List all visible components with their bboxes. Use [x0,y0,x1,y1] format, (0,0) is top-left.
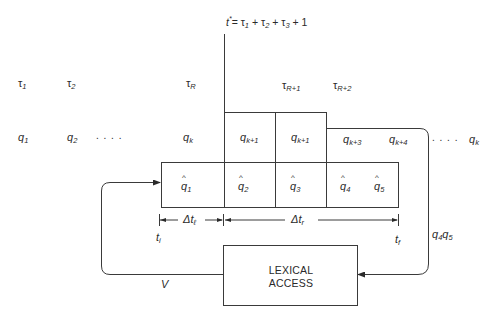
lexical-access-label: LEXICAL ACCESS [224,264,358,290]
q-hat-5: ^q5 [374,181,384,194]
q-2: q2 [67,132,77,145]
tau-2: τ2 [67,78,76,91]
q-ellipsis-left: . . . . [96,131,122,141]
q-k-plus-1-b: qk+1 [291,132,309,145]
tau-r-plus-2: τR+2 [333,80,351,93]
delta-t-left: Δtℓ [183,214,196,227]
t-star-equation: t*= τ1 + τ2 + τ3 + 1 [226,15,307,29]
q-1: q1 [18,132,28,145]
q-k: qk [183,132,193,145]
qhat-row-box [162,163,399,208]
q-hat-4: ^q4 [340,181,350,194]
output-q4q5-label: q4q5 [432,229,453,242]
q-hat-2: ^q2 [238,181,248,194]
q-ellipsis-right: . . . . [432,133,458,143]
delta-t-right: Δtr [291,214,304,227]
q-k-plus-1-a: qk+1 [240,132,258,145]
t-initial: ti [156,232,161,245]
tau-r: τR [186,78,196,91]
q-k-plus-4: qk+4 [389,134,407,147]
q-hat-1: ^q1 [181,181,191,194]
tau-r-plus-1: τR+1 [282,80,300,93]
q-hat-3: ^q3 [290,181,300,194]
tau-1: τ1 [18,78,27,91]
q-k-plus-3: qk+3 [343,134,361,147]
output-path [327,129,429,275]
q-k-end: qk [469,134,479,147]
feedback-path [102,183,224,275]
feedback-v-label: V [161,279,168,290]
t-final: tf [395,234,400,247]
